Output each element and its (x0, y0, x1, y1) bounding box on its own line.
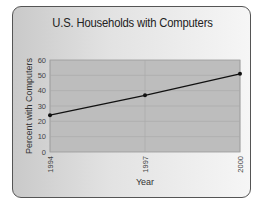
data-point (143, 93, 147, 97)
x-axis-ticks: 199419972000 (46, 156, 245, 173)
y-tick-label: 60 (38, 56, 46, 65)
x-tick-label: 2000 (236, 156, 245, 173)
y-axis-label: Percent with Computers (24, 57, 34, 154)
x-axis-label: Year (136, 177, 154, 187)
y-axis-ticks: 0102030405060 (38, 56, 46, 157)
plot-area (50, 60, 240, 152)
line-chart: 0102030405060 199419972000 Percent with … (0, 0, 255, 202)
data-point (48, 113, 52, 117)
y-tick-label: 50 (38, 71, 46, 80)
y-tick-label: 0 (42, 148, 46, 157)
y-tick-label: 40 (38, 86, 46, 95)
y-tick-label: 10 (38, 132, 46, 141)
x-tick-label: 1994 (46, 156, 55, 173)
data-point (238, 72, 242, 76)
y-tick-label: 20 (38, 117, 46, 126)
x-tick-label: 1997 (141, 156, 150, 173)
y-tick-label: 30 (38, 102, 46, 111)
